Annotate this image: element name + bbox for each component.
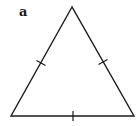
equilateral-triangle-figure: a xyxy=(0,0,139,126)
triangle-outline xyxy=(11,7,134,116)
triangle-diagram xyxy=(0,0,139,126)
